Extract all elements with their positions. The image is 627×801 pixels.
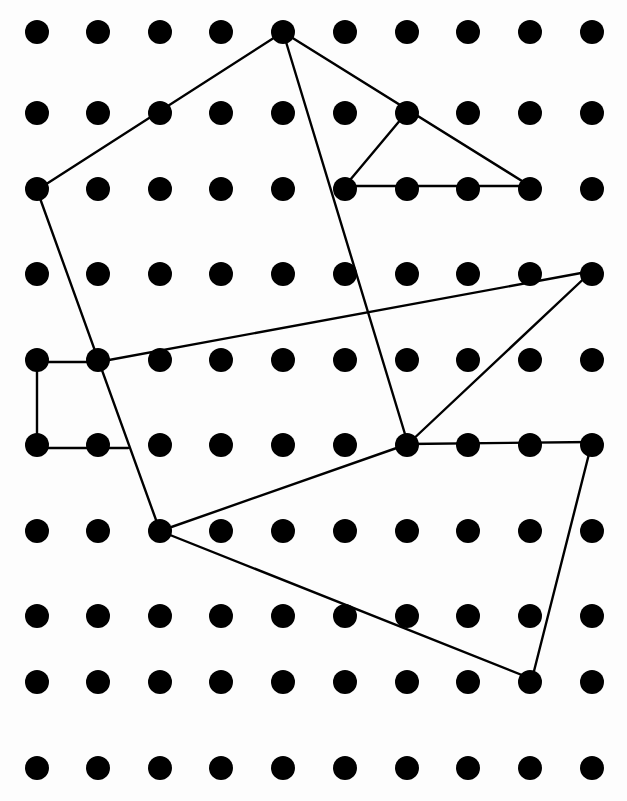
grid-dot [209, 20, 233, 44]
grid-dot [271, 519, 295, 543]
grid-dot [209, 348, 233, 372]
grid-dot [518, 756, 542, 780]
grid-dot [456, 20, 480, 44]
grid-dot [395, 756, 419, 780]
connecting-line [408, 271, 592, 444]
grid-dot [518, 604, 542, 628]
grid-dot [580, 101, 604, 125]
grid-dot [25, 670, 49, 694]
diagram-svg [0, 0, 627, 801]
grid-dot [333, 101, 357, 125]
grid-dot [86, 20, 110, 44]
grid-dot [25, 604, 49, 628]
grid-dot [25, 20, 49, 44]
grid-dot [209, 756, 233, 780]
grid-dot [25, 262, 49, 286]
connecting-line [408, 442, 592, 444]
grid-dot [148, 20, 172, 44]
grid-dot [333, 20, 357, 44]
grid-dot [518, 348, 542, 372]
grid-dot [518, 519, 542, 543]
connecting-line [532, 442, 592, 679]
grid-dot [25, 756, 49, 780]
grid-dot [395, 101, 419, 125]
grid-dot [209, 519, 233, 543]
grid-dot [86, 756, 110, 780]
grid-dot [333, 433, 357, 457]
grid-dot [86, 262, 110, 286]
connecting-lines [37, 32, 592, 679]
grid-dot [456, 519, 480, 543]
grid-dot [333, 604, 357, 628]
connecting-line [160, 444, 408, 531]
grid-dot [395, 262, 419, 286]
grid-dot [518, 670, 542, 694]
grid-dot [395, 433, 419, 457]
grid-dot [271, 756, 295, 780]
grid-dot [456, 756, 480, 780]
grid-dot [148, 177, 172, 201]
grid-dot [518, 177, 542, 201]
grid-dot [580, 348, 604, 372]
grid-dot [209, 262, 233, 286]
grid-dot [456, 101, 480, 125]
grid-dot [86, 604, 110, 628]
grid-dot [333, 670, 357, 694]
grid-dot [209, 433, 233, 457]
grid-dot [148, 348, 172, 372]
grid-dot [25, 519, 49, 543]
grid-dot [86, 177, 110, 201]
grid-dot [25, 348, 49, 372]
grid-dot [456, 433, 480, 457]
grid-dot [271, 177, 295, 201]
grid-dot [456, 670, 480, 694]
grid-dot [271, 670, 295, 694]
grid-dot [148, 519, 172, 543]
grid-dot [209, 177, 233, 201]
grid-dot [86, 348, 110, 372]
connecting-line [345, 112, 407, 186]
grid-dot [333, 177, 357, 201]
grid-dot [148, 756, 172, 780]
grid-dot [209, 670, 233, 694]
grid-dot [148, 604, 172, 628]
grid-dot [518, 101, 542, 125]
connecting-line [283, 32, 408, 444]
grid-dot [395, 20, 419, 44]
grid-dot [148, 262, 172, 286]
grid-dot [395, 348, 419, 372]
grid-dot [333, 348, 357, 372]
grid-dot [271, 604, 295, 628]
grid-dot [271, 262, 295, 286]
grid-dot [456, 348, 480, 372]
grid-dot [518, 262, 542, 286]
grid-dot [395, 519, 419, 543]
grid-dot [580, 262, 604, 286]
grid-dot [271, 20, 295, 44]
grid-dot [518, 433, 542, 457]
grid-dot [148, 101, 172, 125]
grid-dot [580, 177, 604, 201]
dot-grid-diagram [0, 0, 627, 801]
grid-dot [395, 670, 419, 694]
grid-dot [580, 20, 604, 44]
grid-dot [580, 670, 604, 694]
grid-dot [25, 177, 49, 201]
grid-dot [456, 604, 480, 628]
grid-dot [86, 101, 110, 125]
grid-dot [25, 433, 49, 457]
grid-dot [86, 433, 110, 457]
grid-dot [580, 519, 604, 543]
grid-dot [456, 177, 480, 201]
grid-dot [25, 101, 49, 125]
grid-dot [86, 670, 110, 694]
grid-dot [580, 604, 604, 628]
grid-dot [395, 604, 419, 628]
grid-dot [456, 262, 480, 286]
grid-dot [148, 433, 172, 457]
grid-dot [86, 519, 110, 543]
grid-dot [209, 101, 233, 125]
grid-dot [271, 348, 295, 372]
grid-dot [333, 756, 357, 780]
grid-dot [333, 262, 357, 286]
